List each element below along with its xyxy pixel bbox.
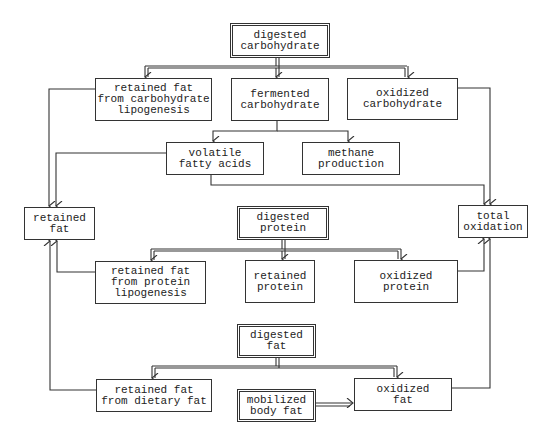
node-retained-fat: retained fat <box>24 207 95 240</box>
node-mobilized-body-fat: mobilized body fat <box>237 389 316 422</box>
carb-branch <box>145 57 408 77</box>
node-retained-fat-carbohydrate-lipogenesis: retained fat from carbohydrate lipogenes… <box>95 78 212 121</box>
node-methane-production: methane production <box>302 142 400 175</box>
node-digested-carbohydrate: digested carbohydrate <box>230 23 330 58</box>
node-volatile-fatty-acids: volatile fatty acids <box>166 142 264 175</box>
node-retained-protein: retained protein <box>245 260 315 303</box>
node-oxidized-fat: oxidized fat <box>354 378 452 411</box>
node-oxidized-protein: oxidized protein <box>354 260 458 303</box>
node-total-oxidation: total oxidation <box>458 205 528 238</box>
protein-branch <box>151 240 401 260</box>
fat-branch <box>152 357 397 378</box>
node-oxidized-carbohydrate: oxidized carbohydrate <box>347 78 458 120</box>
node-retained-fat-dietary-fat: retained fat from dietary fat <box>96 379 212 412</box>
node-digested-fat: digested fat <box>237 324 316 358</box>
node-digested-protein: digested protein <box>237 206 329 240</box>
node-retained-fat-protein-lipogenesis: retained fat from protein lipogenesis <box>95 261 206 304</box>
node-fermented-carbohydrate: fermented carbohydrate <box>231 78 329 121</box>
